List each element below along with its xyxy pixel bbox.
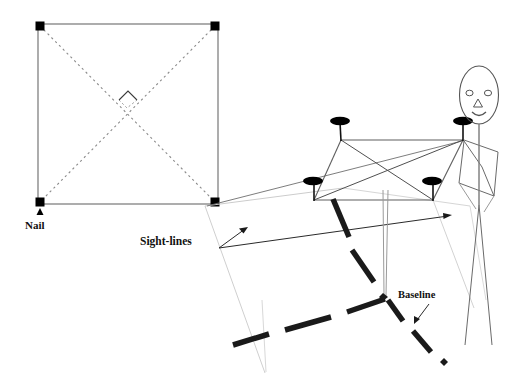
nail-label: Nail	[25, 219, 45, 231]
plan-nail-top-left	[36, 22, 45, 31]
shoulder-line	[464, 140, 498, 152]
arm-outer-line	[494, 152, 498, 196]
post-line-left	[383, 190, 384, 296]
plan-nail-top-right	[211, 22, 220, 31]
construction-line-horizon-right	[343, 188, 470, 206]
right-angle-marker	[119, 91, 137, 100]
leg-left	[465, 205, 479, 345]
sight-callout-line-lower	[219, 216, 448, 248]
baseline-group	[233, 199, 431, 352]
nose-icon	[474, 99, 483, 107]
plan-nail-bottom-left	[36, 198, 45, 207]
perspective-diagram: Nail Sight-lines	[0, 0, 525, 386]
baseline-dash-left-1	[347, 299, 385, 312]
frame-edge-right	[433, 140, 463, 200]
nail-head-far-left	[330, 117, 350, 125]
baseline-dash-upper-2	[352, 250, 374, 282]
sight-callout-arrowhead-lower-icon	[443, 213, 452, 219]
plan-view-group: Nail	[25, 22, 220, 232]
post-line-right	[386, 190, 388, 296]
frame-diagonal-a	[341, 140, 433, 200]
eye-right-icon	[484, 90, 491, 96]
eye-left-icon	[466, 90, 473, 96]
baseline-label: Baseline	[398, 289, 436, 300]
baseline-dash-right-2	[413, 331, 431, 352]
baseline-dash-right-1	[388, 300, 403, 321]
mouth-icon	[472, 112, 486, 116]
sight-lines-label: Sight-lines	[140, 235, 192, 248]
baseline-dash-left-3	[233, 334, 269, 345]
sight-lines-group: Sight-lines	[140, 141, 462, 248]
perspective-frame-group	[303, 117, 473, 296]
nail-callout-arrow-icon	[37, 208, 44, 215]
leg-right	[479, 205, 492, 345]
construction-line-vertical-left	[205, 206, 265, 373]
nail-head-near-left	[303, 177, 323, 185]
baseline-end-dot	[440, 358, 448, 366]
baseline-dash-left-2	[285, 317, 331, 330]
hip-line-right	[484, 196, 494, 212]
baseline-callout-line	[417, 304, 429, 320]
nail-head-near-right	[422, 177, 442, 185]
sight-ray-to-far-nail	[207, 141, 462, 206]
diagram-canvas: Nail Sight-lines	[0, 0, 525, 386]
construction-line-right-down	[433, 200, 474, 308]
